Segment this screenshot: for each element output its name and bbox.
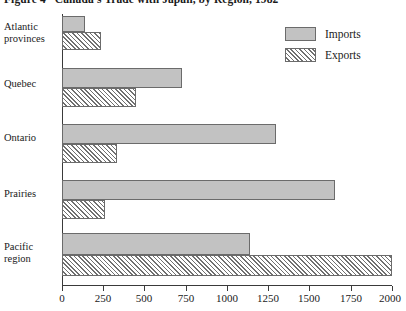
x-tick-750 xyxy=(186,286,187,291)
category-label-atlantic: Atlantic provinces xyxy=(4,21,60,44)
bar-exports-prairies xyxy=(62,200,105,219)
x-tick-1750 xyxy=(351,286,352,291)
x-tick-1250 xyxy=(268,286,269,291)
x-tick-0 xyxy=(62,286,63,291)
bar-imports-quebec xyxy=(62,68,182,88)
x-tick-label-250: 250 xyxy=(83,292,123,305)
category-label-ontario: Ontario xyxy=(4,132,60,144)
x-tick-1500 xyxy=(309,286,310,291)
bar-imports-pacific xyxy=(62,233,250,255)
category-label-quebec: Quebec xyxy=(4,78,60,90)
bar-exports-ontario xyxy=(62,144,117,163)
x-tick-label-750: 750 xyxy=(166,292,206,305)
legend-swatch-imports-icon xyxy=(285,27,316,41)
category-label-prairies: Prairies xyxy=(4,188,60,200)
bar-exports-quebec xyxy=(62,88,136,107)
bar-exports-atlantic xyxy=(62,32,101,50)
bar-imports-ontario xyxy=(62,124,276,144)
legend-label-imports: Imports xyxy=(325,26,361,42)
bar-exports-pacific xyxy=(62,255,392,276)
x-tick-250 xyxy=(103,286,104,291)
x-tick-label-1750: 1750 xyxy=(331,292,371,305)
bar-imports-atlantic xyxy=(62,16,85,32)
x-tick-label-1000: 1000 xyxy=(207,292,247,305)
x-tick-500 xyxy=(144,286,145,291)
x-tick-label-2000: 2000 xyxy=(370,292,406,305)
bar-imports-prairies xyxy=(62,180,335,200)
legend-label-exports: Exports xyxy=(325,47,361,63)
x-tick-2000 xyxy=(392,286,393,291)
x-tick-label-0: 0 xyxy=(42,292,82,305)
x-tick-label-1250: 1250 xyxy=(248,292,288,305)
x-tick-1000 xyxy=(227,286,228,291)
category-label-pacific: Pacific region xyxy=(4,241,60,264)
legend-swatch-exports-icon xyxy=(285,48,316,62)
x-tick-label-500: 500 xyxy=(124,292,164,305)
x-tick-label-1500: 1500 xyxy=(289,292,329,305)
